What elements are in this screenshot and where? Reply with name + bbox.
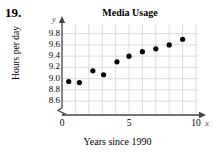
- data-point: [153, 46, 158, 51]
- data-point: [66, 79, 71, 84]
- x-axis-arrow-icon: [199, 112, 206, 118]
- data-point: [90, 68, 95, 73]
- scatter-plot: [0, 0, 217, 155]
- data-point: [126, 54, 131, 59]
- data-point: [180, 37, 185, 42]
- axis-break-icon: [58, 108, 65, 115]
- data-point: [114, 59, 119, 64]
- y-axis-arrow-icon: [59, 16, 65, 23]
- data-point: [167, 42, 172, 47]
- data-point: [101, 72, 106, 77]
- data-point: [140, 49, 145, 54]
- data-point: [77, 80, 82, 85]
- figure-container: 19. Media Usage Hours per day Years sinc…: [0, 0, 217, 155]
